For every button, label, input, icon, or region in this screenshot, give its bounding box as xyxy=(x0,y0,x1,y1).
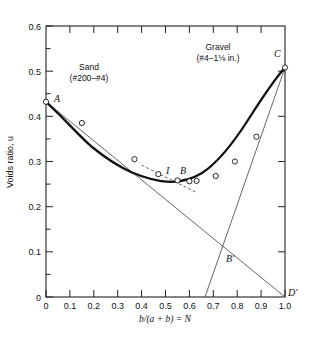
x-axis-title: b/(a + b) = N xyxy=(139,314,192,325)
y-tick-label: 0.6 xyxy=(28,22,41,32)
y-tick-label: 0.2 xyxy=(28,202,41,212)
data-point xyxy=(156,172,161,177)
data-point xyxy=(254,134,259,139)
x-tick-label: 0.7 xyxy=(207,301,220,311)
sand-label-line1: Sand xyxy=(79,62,99,72)
label-point-B: B xyxy=(180,165,186,176)
label-point-Bprime: B' xyxy=(226,253,235,264)
x-tick-label: 0.8 xyxy=(231,301,244,311)
x-tick-label: 0.4 xyxy=(135,301,148,311)
x-tick-label: 0.6 xyxy=(183,301,196,311)
chart-svg: 0 0.1 0.2 0.3 0.4 0.5 0.6 Voids ratio, u xyxy=(0,0,314,346)
label-point-I: I xyxy=(165,165,170,176)
data-point xyxy=(43,99,48,104)
x-tick-label: 0 xyxy=(43,301,48,311)
data-point xyxy=(175,178,180,183)
y-tick-label: 0.5 xyxy=(28,67,41,77)
data-point xyxy=(194,178,199,183)
data-point xyxy=(187,179,192,184)
y-axis-title: Voids ratio, u xyxy=(5,136,15,188)
figure-voids-ratio-chart: 0 0.1 0.2 0.3 0.4 0.5 0.6 Voids ratio, u xyxy=(0,0,314,346)
label-point-Dprime: D' xyxy=(287,287,298,298)
sand-label-line2: (#200–#4) xyxy=(70,73,109,83)
data-point xyxy=(282,65,287,70)
data-point xyxy=(132,157,137,162)
label-point-C: C xyxy=(274,48,281,59)
x-tick-label: 0.3 xyxy=(111,301,124,311)
y-tick-label: 0 xyxy=(36,293,41,303)
x-tick-label: 0.9 xyxy=(255,301,268,311)
x-axis-tick-labels: 0 0.1 0.2 0.3 0.4 0.5 0.6 0.7 0.8 0.9 1.… xyxy=(43,301,291,311)
x-tick-label: 0.2 xyxy=(88,301,101,311)
y-tick-label: 0.4 xyxy=(28,112,41,122)
data-point xyxy=(232,159,237,164)
y-axis-tick-labels: 0 0.1 0.2 0.3 0.4 0.5 0.6 xyxy=(28,22,41,303)
x-tick-label: 1.0 xyxy=(279,301,292,311)
x-tick-label: 0.5 xyxy=(159,301,172,311)
y-tick-label: 0.1 xyxy=(28,247,41,257)
data-point xyxy=(79,120,84,125)
gravel-label-line2: (#4–1⅛ in.) xyxy=(197,53,240,63)
label-point-A: A xyxy=(53,93,61,104)
gravel-label-line1: Gravel xyxy=(205,42,230,52)
x-tick-label: 0.1 xyxy=(64,301,77,311)
data-point xyxy=(213,173,218,178)
y-tick-label: 0.3 xyxy=(28,157,41,167)
